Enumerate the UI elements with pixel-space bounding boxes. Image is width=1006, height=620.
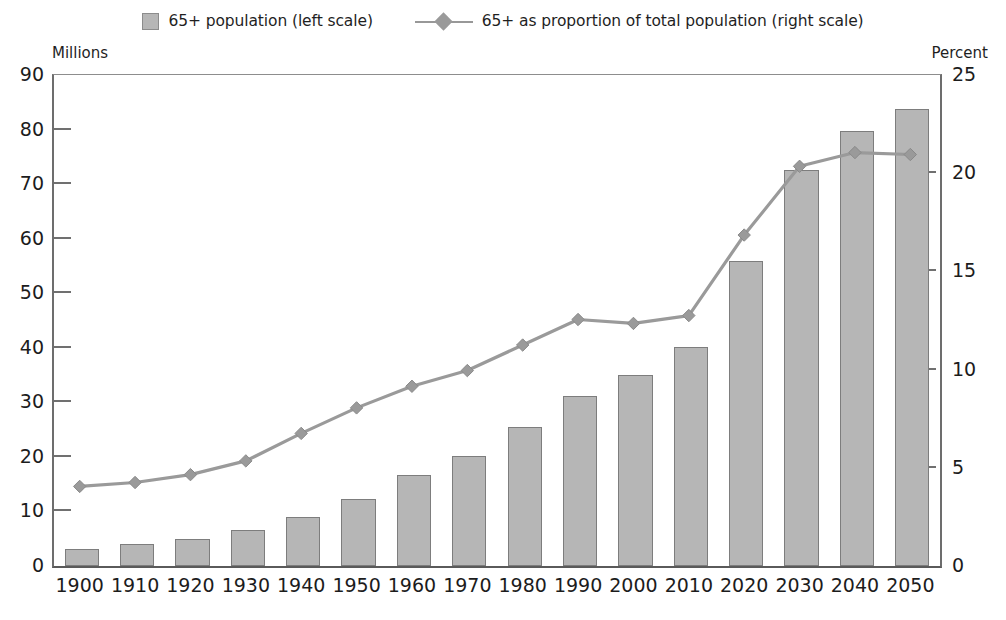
legend-label-bars: 65+ population (left scale) (168, 12, 372, 30)
x-tick-label-1910: 1910 (111, 574, 159, 596)
bar-1940 (286, 517, 320, 566)
bar-1980 (508, 427, 542, 566)
y2-tick-label: 25 (952, 63, 976, 85)
plot-area (52, 74, 942, 568)
x-tick-label-2030: 2030 (775, 574, 823, 596)
x-tick-label-2000: 2000 (609, 574, 657, 596)
line-diamond-icon (415, 14, 473, 29)
bar-2030 (784, 170, 818, 566)
y-tick-label: 30 (20, 390, 44, 412)
y2-tick-label: 10 (952, 358, 976, 380)
legend-item-bars: 65+ population (left scale) (142, 12, 372, 30)
x-tick-label-1980: 1980 (499, 574, 547, 596)
chart-legend: 65+ population (left scale) 65+ as propo… (0, 8, 1006, 34)
x-tick-label-2020: 2020 (720, 574, 768, 596)
bar-2040 (840, 131, 874, 566)
y-tick-label: 80 (20, 118, 44, 140)
y-tick-label: 60 (20, 227, 44, 249)
bar-1960 (397, 475, 431, 566)
y-tick-label: 40 (20, 336, 44, 358)
chart-container: 65+ population (left scale) 65+ as propo… (0, 0, 1006, 620)
x-tick-label-1950: 1950 (332, 574, 380, 596)
bar-1910 (120, 544, 154, 566)
bar-swatch-icon (142, 13, 159, 30)
bar-1950 (341, 499, 375, 566)
x-tick-label-1960: 1960 (388, 574, 436, 596)
x-tick-label-1990: 1990 (554, 574, 602, 596)
y-tick-label: 50 (20, 281, 44, 303)
bar-2020 (729, 261, 763, 566)
y2-tick-label: 5 (952, 456, 964, 478)
y2-tick-label: 15 (952, 259, 976, 281)
x-tick-label-2050: 2050 (886, 574, 934, 596)
y-tick-label: 90 (20, 63, 44, 85)
x-tick-label-1900: 1900 (56, 574, 104, 596)
y-tick-label: 20 (20, 445, 44, 467)
y-tick-label: 0 (32, 554, 44, 576)
bar-1900 (65, 549, 99, 566)
bar-1920 (175, 539, 209, 566)
bar-1990 (563, 396, 597, 566)
y2-tick-label: 0 (952, 554, 964, 576)
x-tick-label-1930: 1930 (222, 574, 270, 596)
bar-1970 (452, 456, 486, 566)
right-axis-caption: Percent (932, 44, 988, 62)
x-tick-label-2010: 2010 (665, 574, 713, 596)
x-tick-label-2040: 2040 (831, 574, 879, 596)
y2-tick-label: 20 (952, 161, 976, 183)
bar-2000 (618, 375, 652, 566)
legend-label-line: 65+ as proportion of total population (r… (482, 12, 864, 30)
x-tick-label-1920: 1920 (166, 574, 214, 596)
x-tick-label-1940: 1940 (277, 574, 325, 596)
bar-1930 (231, 530, 265, 566)
x-tick-label-1970: 1970 (443, 574, 491, 596)
legend-item-line: 65+ as proportion of total population (r… (415, 12, 864, 30)
y-tick-label: 70 (20, 172, 44, 194)
bar-2050 (895, 109, 929, 566)
y-tick-label: 10 (20, 499, 44, 521)
left-axis-caption: Millions (52, 44, 108, 62)
bar-2010 (674, 347, 708, 566)
